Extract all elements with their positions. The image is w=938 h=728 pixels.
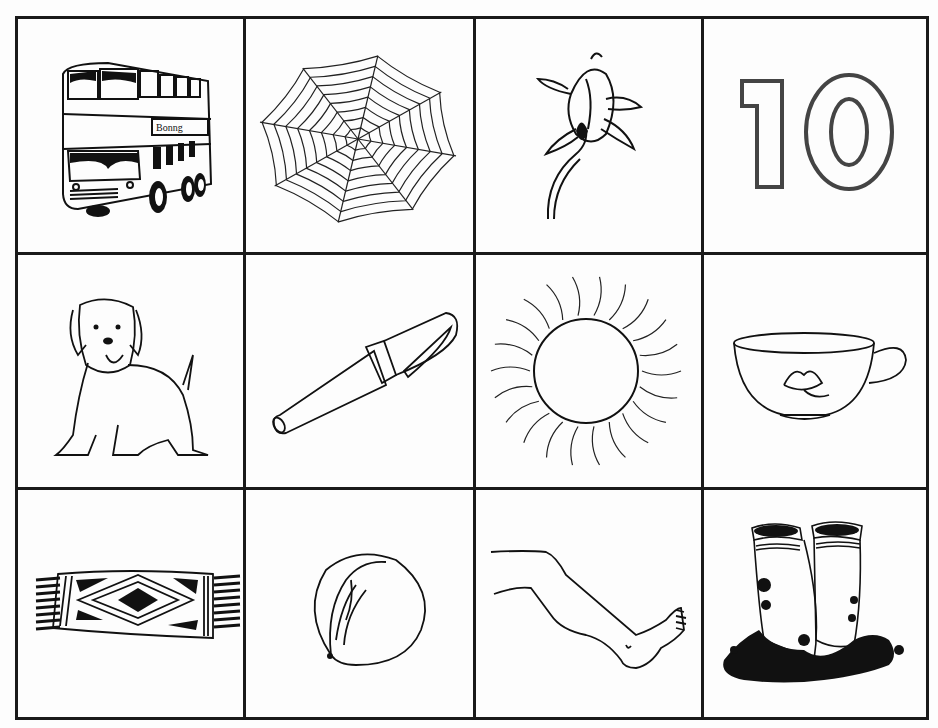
card-leg: leg: [476, 490, 701, 720]
card-number-ten: 10: [704, 19, 926, 252]
picture-card-grid: bus Bonng: [15, 16, 929, 720]
card-teacup: cup: [704, 255, 926, 487]
double-decker-bus-icon: Bonng: [18, 19, 243, 252]
leg-icon: [476, 490, 701, 720]
card-spider-web: spider web: [246, 19, 473, 252]
teacup-icon: [704, 255, 926, 487]
card-boots: boots: [704, 490, 926, 720]
card-rug: rug: [18, 490, 243, 720]
card-pen: pen: [246, 255, 473, 487]
bus-destination-sign: Bonng: [156, 122, 183, 133]
puppy-icon: [18, 255, 243, 487]
muddy-boots-icon: [704, 490, 926, 720]
card-puppy: puppy: [18, 255, 243, 487]
number-ten-outline: [704, 19, 926, 252]
sun-icon: [476, 255, 701, 487]
rug-icon: [18, 490, 243, 720]
card-sun: sun: [476, 255, 701, 487]
spider-web-icon: [246, 19, 473, 252]
card-walnut: walnut: [246, 490, 473, 720]
rose-bud-icon: [476, 19, 701, 252]
card-bus: bus Bonng: [18, 19, 243, 252]
walnut-icon: [246, 490, 473, 720]
pen-icon: [246, 255, 473, 487]
card-rose-bud: rose bud: [476, 19, 701, 252]
